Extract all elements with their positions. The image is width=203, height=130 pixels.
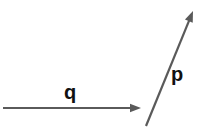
vector-q-label: q — [64, 82, 76, 102]
vector-p-label: p — [171, 64, 183, 84]
vector-diagram-figure: q p — [0, 0, 203, 130]
